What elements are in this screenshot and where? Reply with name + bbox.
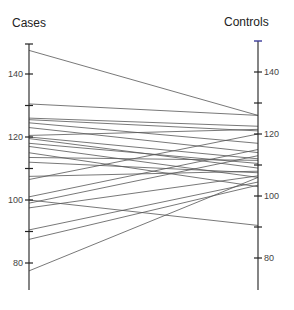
- paired-chart: Cases Controls 8010012014080100120140: [0, 0, 294, 310]
- pair-line: [29, 185, 258, 239]
- pair-line: [29, 171, 258, 176]
- cases-axis-title: Cases: [12, 16, 46, 30]
- pair-line: [29, 176, 258, 208]
- controls-tick-label: 140: [264, 67, 279, 77]
- controls-tick-label: 80: [264, 253, 274, 263]
- pair-line: [29, 182, 258, 230]
- pair-line: [29, 200, 258, 225]
- controls-tick-label: 100: [264, 191, 279, 201]
- pair-line: [29, 156, 258, 203]
- controls-axis-title: Controls: [224, 15, 269, 29]
- cases-tick-label: 140: [8, 69, 23, 79]
- pair-lines: [29, 50, 258, 271]
- pair-line: [29, 129, 258, 135]
- pair-line: [29, 177, 258, 270]
- controls-tick-label: 120: [264, 129, 279, 139]
- pair-line: [29, 157, 258, 160]
- cases-tick-label: 100: [8, 195, 23, 205]
- pair-line: [29, 143, 258, 163]
- cases-tick-label: 80: [13, 258, 23, 268]
- cases-tick-label: 120: [8, 132, 23, 142]
